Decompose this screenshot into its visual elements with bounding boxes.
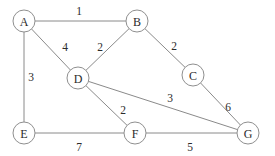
node-label: A — [20, 15, 29, 29]
graph-node-b[interactable]: B — [126, 10, 148, 32]
edge-weight-label: 3 — [167, 92, 173, 104]
edge-weight-label: 5 — [187, 141, 193, 153]
edge-weight-label: 3 — [28, 71, 34, 83]
graph-node-f[interactable]: F — [124, 122, 146, 144]
edge-weight-label: 2 — [171, 40, 177, 52]
node-label: G — [244, 127, 253, 141]
edge-weight-label: 2 — [97, 41, 103, 53]
edge-weight-label: 1 — [76, 5, 82, 17]
graph-node-c[interactable]: C — [182, 64, 204, 86]
graph-edge — [145, 29, 185, 68]
graph-edge — [88, 81, 237, 129]
nodes-layer: ABCDEFG — [13, 10, 259, 144]
edge-weight-label: 7 — [76, 141, 82, 153]
node-label: D — [74, 72, 83, 86]
graph-edge — [201, 83, 241, 125]
graph-node-g[interactable]: G — [237, 122, 259, 144]
weighted-graph-figure: 1432263275 ABCDEFG — [0, 0, 275, 156]
node-label: E — [20, 127, 27, 141]
edge-weight-label: 6 — [225, 101, 231, 113]
edge-weight-label: 2 — [120, 104, 126, 116]
node-label: B — [133, 15, 141, 29]
node-label: F — [132, 127, 139, 141]
edge-weight-label: 4 — [62, 41, 68, 53]
edges-layer — [24, 21, 240, 133]
graph-canvas: 1432263275 ABCDEFG — [0, 0, 275, 156]
graph-edge — [86, 29, 129, 71]
node-label: C — [189, 69, 197, 83]
graph-node-a[interactable]: A — [13, 10, 35, 32]
graph-node-e[interactable]: E — [13, 122, 35, 144]
graph-node-d[interactable]: D — [67, 67, 89, 89]
